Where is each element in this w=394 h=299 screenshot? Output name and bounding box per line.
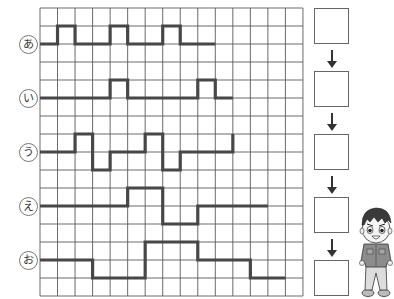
worksheet: あ い う え お <box>0 0 394 299</box>
answer-box-5[interactable] <box>314 260 349 296</box>
arrow-down-icon <box>327 239 337 257</box>
grid-lines <box>40 8 303 296</box>
left-hand <box>360 261 365 266</box>
right-hand <box>388 261 393 266</box>
answer-box-3[interactable] <box>314 134 349 170</box>
left-shoe <box>362 290 374 297</box>
answer-box-4[interactable] <box>314 197 349 233</box>
boy-character-illustration <box>358 203 394 298</box>
row-label-u: う <box>19 143 38 162</box>
row-label-o: お <box>19 251 38 270</box>
answer-box-1[interactable] <box>314 8 349 44</box>
arrow-down-icon <box>327 176 337 194</box>
waveform-3 <box>40 134 233 170</box>
row-label-e: え <box>19 197 38 216</box>
right-pocket <box>379 249 385 254</box>
left-pocket <box>367 249 373 254</box>
row-label-i: い <box>19 89 38 108</box>
answer-box-2[interactable] <box>314 71 349 107</box>
arrow-down-icon <box>327 50 337 68</box>
arrow-down-icon <box>327 113 337 131</box>
right-shoe <box>378 290 390 297</box>
waveform-2 <box>40 80 233 98</box>
row-label-a: あ <box>19 35 38 54</box>
waveform-1 <box>40 26 215 44</box>
pants <box>365 265 387 290</box>
